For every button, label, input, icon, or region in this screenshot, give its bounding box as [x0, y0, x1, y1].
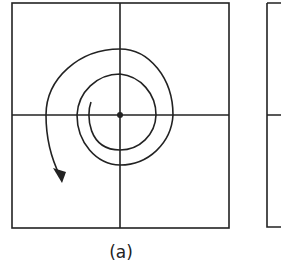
center-point — [117, 112, 123, 118]
arrowhead-icon — [53, 168, 66, 183]
panel-b-frame-partial — [267, 3, 281, 227]
panel-label: (a) — [104, 242, 138, 262]
spiral-path — [46, 49, 173, 176]
figure-canvas — [0, 0, 281, 268]
